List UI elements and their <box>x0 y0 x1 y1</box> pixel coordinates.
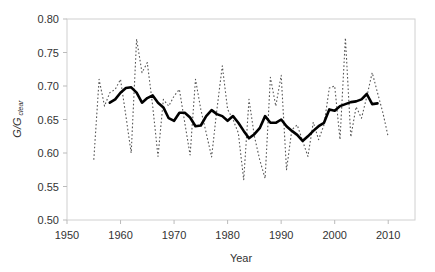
series-layer <box>94 38 388 180</box>
x-axis: 1950196019701980199020002010 <box>55 220 401 241</box>
y-tick-label: 0.80 <box>38 13 59 25</box>
x-tick-label: 2010 <box>376 229 400 241</box>
x-tick-label: 1950 <box>55 229 79 241</box>
x-axis-title: Year <box>230 252 253 264</box>
series-annual-line <box>94 38 388 180</box>
x-tick-label: 1990 <box>269 229 293 241</box>
chart: 0.500.550.600.650.700.750.80 19501960197… <box>0 0 435 272</box>
y-axis-title: G/Gclear <box>11 100 24 138</box>
y-tick-label: 0.65 <box>38 114 59 126</box>
x-tick-label: 2000 <box>322 229 346 241</box>
y-tick-label: 0.55 <box>38 181 59 193</box>
y-tick-label: 0.75 <box>38 47 59 59</box>
y-axis-title-main: G/G <box>11 117 23 138</box>
x-tick-label: 1980 <box>215 229 239 241</box>
plot-area-frame <box>67 19 415 220</box>
x-tick-label: 1970 <box>162 229 186 241</box>
y-tick-label: 0.70 <box>38 80 59 92</box>
y-axis: 0.500.550.600.650.700.750.80 <box>38 13 67 226</box>
x-tick-label: 1960 <box>108 229 132 241</box>
y-tick-label: 0.50 <box>38 214 59 226</box>
y-axis-title-subscript: clear <box>17 100 24 116</box>
y-tick-label: 0.60 <box>38 147 59 159</box>
line-chart: 0.500.550.600.650.700.750.80 19501960197… <box>0 0 435 272</box>
